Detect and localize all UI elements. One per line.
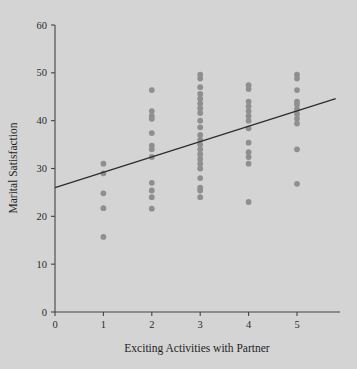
data-point [197,76,203,82]
y-tick-label: 20 [37,211,48,222]
y-tick-label: 0 [42,307,47,318]
data-point [197,188,203,194]
data-point [149,116,155,122]
data-point [149,146,155,152]
data-points-group [101,72,300,240]
data-point [101,234,107,240]
x-tick-label: 3 [198,319,203,330]
x-tick-label: 4 [246,319,252,330]
x-tick-label: 0 [52,319,57,330]
data-point [294,121,300,127]
regression-line [55,99,336,188]
data-point [197,166,203,172]
x-axis-title: Exciting Activities with Partner [124,342,269,355]
data-point [246,199,252,205]
data-point [294,181,300,187]
trendline-group [55,99,336,188]
x-tick-label: 1 [101,319,106,330]
chart-canvas: 0102030405060 012345 Exciting Activities… [0,0,357,369]
data-point [197,118,203,124]
y-tick-label: 50 [37,67,48,78]
data-point [246,140,252,146]
y-axis-ticks: 0102030405060 [37,20,56,318]
data-point [294,76,300,82]
data-point [197,110,203,116]
data-point [197,84,203,90]
y-tick-label: 10 [37,259,48,270]
x-tick-label: 2 [149,319,154,330]
y-tick-label: 30 [37,163,48,174]
data-point [246,118,252,124]
data-point [149,194,155,200]
y-tick-label: 40 [37,115,48,126]
x-tick-label: 5 [294,319,299,330]
data-point [149,206,155,212]
data-point [149,87,155,93]
data-point [246,154,252,160]
data-point [294,87,300,93]
data-point [101,190,107,196]
data-point [101,161,107,167]
data-point [197,194,203,200]
data-point [246,86,252,92]
data-point [149,130,155,136]
data-point [101,205,107,211]
y-tick-label: 60 [37,20,48,31]
data-point [294,146,300,152]
data-point [149,188,155,194]
data-point [197,124,203,130]
scatter-plot-figure: 0102030405060 012345 Exciting Activities… [0,0,357,369]
data-point [246,161,252,167]
plot-surface: 0102030405060 012345 Exciting Activities… [0,0,357,369]
data-point [149,180,155,186]
x-axis-ticks: 012345 [52,312,299,330]
y-axis-title: Marital Satisfaction [7,122,19,213]
data-point [197,175,203,181]
